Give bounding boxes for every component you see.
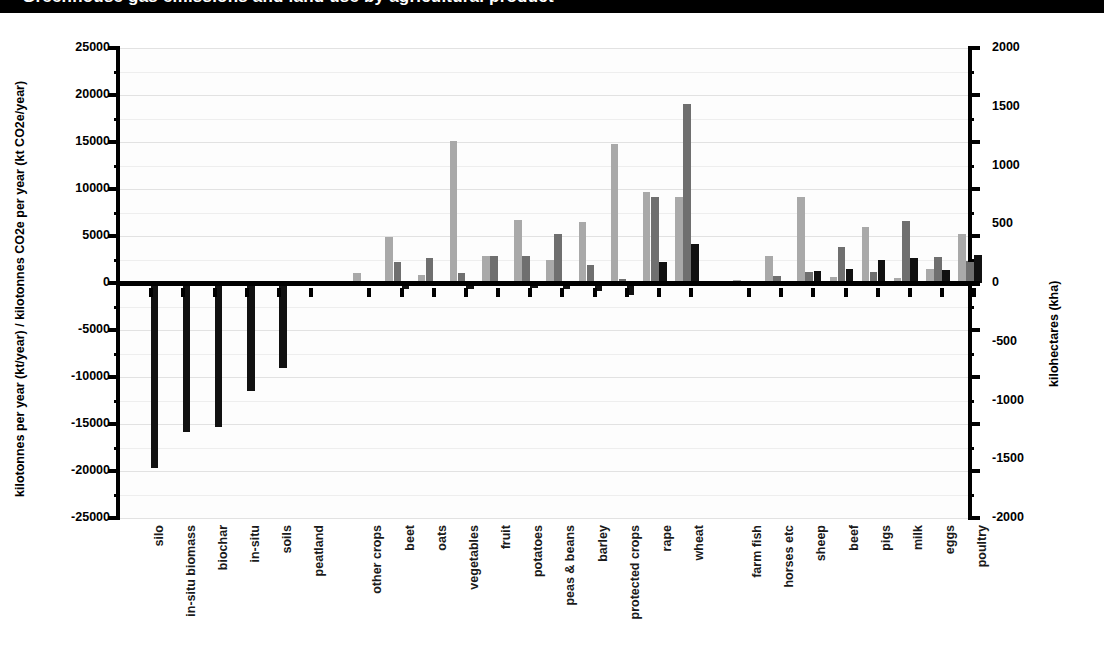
- x-axis-tick: [464, 288, 468, 297]
- y-axis-left-tick-label: 15000: [75, 134, 110, 148]
- plot-area: [116, 48, 972, 518]
- bar-series-dark-pigs: [878, 260, 886, 284]
- axis-tick: [108, 375, 120, 379]
- axis-tick: [108, 187, 120, 191]
- axis-tick: [108, 328, 120, 332]
- x-label-other-crops: other crops: [370, 525, 384, 594]
- bar-series-medium-beef: [838, 247, 846, 283]
- axis-tick: [968, 516, 980, 520]
- y-axis-title-right: kilohectares (kha): [1055, 213, 1089, 473]
- y-axis-title-left-text: kilotonnes per year (kt/year) / kilotonn…: [13, 81, 27, 497]
- y-axis-right-tick-label: 1500: [992, 99, 1020, 113]
- bar-series-dark-poultry: [974, 255, 982, 283]
- y-axis-title-right-text: kilohectares (kha): [1047, 281, 1061, 387]
- x-axis-tick: [593, 288, 597, 297]
- y-axis-right-tick-label: 0: [992, 275, 999, 289]
- axis-tick-minor: [114, 400, 120, 403]
- chart-figure: kilotonnes per year (kt/year) / kilotonn…: [0, 13, 1104, 657]
- axis-tick-minor: [114, 306, 120, 309]
- axis-tick: [108, 422, 120, 426]
- axis-tick-minor: [968, 353, 974, 356]
- x-label-farm-fish: farm fish: [750, 525, 764, 578]
- x-label-rape: rape: [660, 525, 674, 551]
- x-label-beef: beef: [847, 525, 861, 551]
- axis-tick-minor: [114, 165, 120, 168]
- x-axis-tick: [811, 288, 815, 297]
- x-label-poultry: poultry: [975, 525, 989, 567]
- axis-tick: [108, 281, 120, 285]
- x-axis-tick: [400, 288, 404, 297]
- axis-tick: [968, 187, 980, 191]
- x-axis-tick: [181, 288, 185, 297]
- x-axis-tick: [277, 288, 281, 297]
- y-axis-left-tick-label: -15000: [71, 416, 110, 430]
- x-axis-tick: [309, 288, 313, 297]
- bar-series-medium-eggs: [934, 257, 942, 283]
- axis-tick-minor: [968, 118, 974, 121]
- x-label-in-situ-biomass: in-situ biomass: [184, 525, 198, 617]
- y-axis-title-left: kilotonnes per year (kt/year) / kilotonn…: [14, 83, 48, 483]
- x-label-wheat: wheat: [692, 525, 706, 560]
- bar-series-dark-milk: [910, 258, 918, 283]
- axis-tick-minor: [968, 212, 974, 215]
- y-axis-left-tick-label: -25000: [71, 510, 110, 524]
- x-label-horses-etc: horses etc: [782, 525, 796, 588]
- x-axis-tick: [245, 288, 249, 297]
- y-axis-right-tick-label: 2000: [992, 40, 1020, 54]
- bar-series-light-sheep: [797, 197, 805, 283]
- bar-series-light-fruit: [482, 256, 490, 283]
- bar-series-medium-oats: [426, 258, 434, 283]
- x-label-protected-crops: protected crops: [628, 525, 642, 619]
- bar-series-light-barley: [579, 222, 587, 283]
- bar-series-dark-wheat: [691, 244, 699, 283]
- bar-series-dark-in-situ-biomass: [183, 283, 191, 432]
- axis-tick: [968, 281, 980, 285]
- axis-tick-minor: [114, 118, 120, 121]
- bar-series-medium-peas-beans: [554, 234, 562, 283]
- axis-tick: [968, 375, 980, 379]
- axis-tick-minor: [968, 165, 974, 168]
- y-axis-right-tick-label: -1500: [992, 451, 1024, 465]
- bar-series-medium-beet: [394, 262, 402, 283]
- x-label-vegetables: vegetables: [467, 525, 481, 590]
- x-axis-tick: [747, 288, 751, 297]
- axis-tick: [968, 93, 980, 97]
- bar-series-medium-wheat: [683, 104, 691, 283]
- bar-series-light-poultry: [958, 234, 966, 283]
- x-axis-tick: [432, 288, 436, 297]
- bar-series-light-vegetables: [450, 141, 458, 283]
- x-label-fruit: fruit: [499, 525, 513, 549]
- x-axis-tick: [689, 288, 693, 297]
- x-axis-tick: [213, 288, 217, 297]
- axis-tick-minor: [114, 212, 120, 215]
- y-axis-right-tick-label: -2000: [992, 510, 1024, 524]
- x-axis-tick: [367, 288, 371, 297]
- x-label-sheep: sheep: [814, 525, 828, 561]
- axis-tick: [108, 140, 120, 144]
- x-label-peatland: peatland: [312, 525, 326, 576]
- x-axis-tick: [625, 288, 629, 297]
- bar-series-light-protected-crops: [611, 144, 619, 283]
- axis-tick-minor: [968, 71, 974, 74]
- bar-series-dark-in-situ: [247, 283, 255, 391]
- axis-tick-minor: [968, 447, 974, 450]
- x-label-beet: beet: [403, 525, 417, 551]
- bar-series-light-potatoes: [514, 220, 522, 283]
- axis-tick: [108, 516, 120, 520]
- bar-series-light-wheat: [675, 197, 683, 283]
- axis-tick-minor: [968, 494, 974, 497]
- window-title: Greenhouse gas emissions and land use by…: [22, 0, 554, 7]
- bar-series-light-peas-beans: [546, 260, 554, 283]
- bar-series-light-pigs: [862, 227, 870, 283]
- y-axis-right-tick-label: -500: [992, 334, 1017, 348]
- bar-series-dark-rape: [659, 262, 667, 283]
- axis-tick: [968, 234, 980, 238]
- bar-series-light-beet: [385, 237, 393, 283]
- x-axis-tick: [528, 288, 532, 297]
- bar-series-medium-fruit: [490, 256, 498, 283]
- bar-series-medium-milk: [902, 221, 910, 283]
- axis-tick-minor: [968, 400, 974, 403]
- bar-series-light-rape: [643, 192, 651, 283]
- y-axis-right-tick-label: -1000: [992, 393, 1024, 407]
- x-axis-tick: [560, 288, 564, 297]
